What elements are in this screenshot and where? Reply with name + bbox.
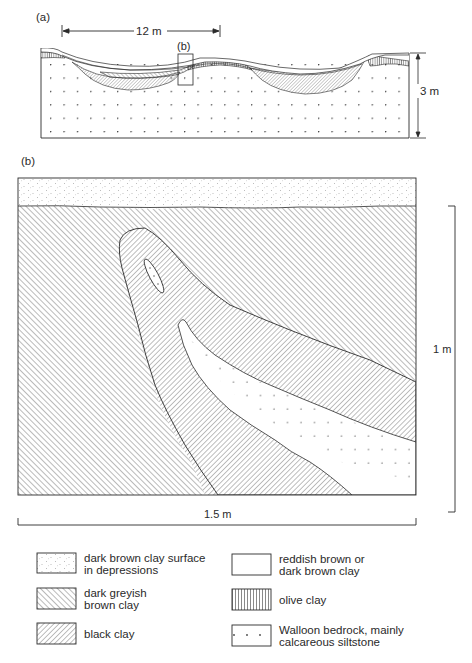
legend-line: calcareous siltstone [279,637,404,649]
legend-line: dark greyish [84,588,147,600]
inset-b-label: (b) [177,40,190,52]
legend-swatch-reddish-brown [232,554,271,575]
legend-label-surface-clay: dark brown clay surface in depressions [84,553,205,576]
panel-a-height-scale-label: 3 m [420,85,439,97]
panel-b-width-scale-label: 1.5 m [204,508,232,520]
legend-line: in depressions [84,565,205,577]
legend-label-reddish-brown: reddish brown or dark brown clay [279,554,365,577]
legend-swatch-bedrock [232,625,271,646]
legend-label-olive-clay: olive clay [279,595,326,607]
panel-a-label: (a) [36,11,50,23]
legend-line: dark brown clay [279,566,365,578]
legend-line: dark brown clay surface [84,553,205,565]
panel-b-height-scale-label: 1 m [433,343,451,355]
legend-label-dark-greyish-brown: dark greyish brown clay [84,588,147,611]
height-scale-bracket [448,206,455,512]
legend-line: olive clay [279,595,326,607]
legend-swatch-dark-greyish-brown [37,588,76,609]
legend-swatch-surface-clay [37,553,76,573]
legend-line: reddish brown or [279,554,365,566]
panel-a-width-scale-label: 12 m [136,25,162,37]
legend-swatch-black-clay [37,623,76,644]
legend-swatch-olive-clay [232,589,271,610]
legend-line: Walloon bedrock, mainly [279,625,404,637]
panel-a-cross-section [41,25,426,138]
legend-label-black-clay: black clay [84,629,135,641]
panel-b-label: (b) [21,155,35,167]
figure-canvas [0,0,472,663]
legend-line: brown clay [84,600,147,612]
legend-label-bedrock: Walloon bedrock, mainly calcareous silts… [279,625,404,648]
legend-line: black clay [84,629,135,641]
panel-b-detail-section [18,178,455,525]
